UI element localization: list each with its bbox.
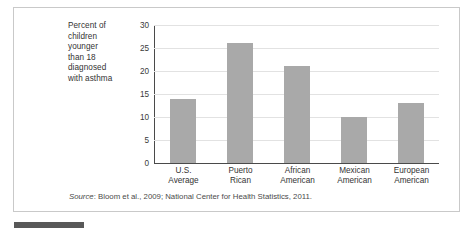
y-axis-caption-line: younger [68,42,140,53]
x-tick-label-line: American [269,176,326,186]
bottom-swatch [14,222,84,228]
y-tick-label: 20 [140,67,149,76]
y-axis-caption-line: Percent of [68,21,140,32]
y-tick-label: 25 [140,44,149,53]
y-axis-caption: Percent of children younger than 18 diag… [68,21,140,85]
bar-slot [269,25,326,163]
x-tick-label-line: American [326,176,383,186]
bar-series [155,25,439,163]
source-note: Source: Bloom et al., 2009; National Cen… [69,192,312,201]
x-tick-label-line: Mexican [326,166,383,176]
x-axis-labels: U.S.AveragePuertoRicanAfricanAmericanMex… [155,166,440,187]
bar [398,103,424,163]
bar-slot [325,25,382,163]
figure-root: Percent of children younger than 18 diag… [0,0,475,231]
bar [341,117,367,163]
y-axis-caption-line: than 18 [68,53,140,64]
x-tick-label-line: U.S. [155,166,212,176]
source-label: Source [69,192,94,201]
figure-box: Percent of children younger than 18 diag… [13,7,460,212]
chart-area: Percent of children younger than 18 diag… [14,8,459,184]
x-tick-label: EuropeanAmerican [383,166,440,187]
bar-slot [212,25,269,163]
x-tick-label-line: Rican [212,176,269,186]
x-tick-label-line: European [383,166,440,176]
x-tick-label: U.S.Average [155,166,212,187]
bar [170,99,196,163]
y-axis-caption-line: with asthma [68,74,140,85]
bar [284,66,310,163]
y-tick-label: 5 [144,136,149,145]
bar-slot [382,25,439,163]
x-tick-label-line: American [383,176,440,186]
y-tick-label: 15 [140,90,149,99]
x-tick-label-line: Average [155,176,212,186]
source-text: : Bloom et al., 2009; National Center fo… [94,192,312,201]
y-axis-caption-line: diagnosed [68,63,140,74]
x-tick-label-line: African [269,166,326,176]
x-axis-line: 0 [154,163,439,164]
y-tick-label: 0 [144,159,149,168]
bar-slot [155,25,212,163]
x-tick-label: PuertoRican [212,166,269,187]
y-axis-caption-line: children [68,32,140,43]
x-tick-label: MexicanAmerican [326,166,383,187]
y-tick-label: 30 [140,21,149,30]
y-tick-label: 10 [140,113,149,122]
x-tick-label: AfricanAmerican [269,166,326,187]
x-tick-label-line: Puerto [212,166,269,176]
plot-area: 051015202530 [154,25,439,163]
bar [227,43,253,163]
